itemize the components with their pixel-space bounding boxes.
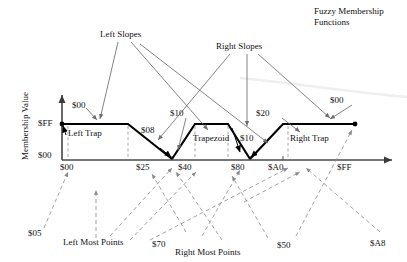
fuzzy-membership-diagram: Fuzzy Membership Functions Membership Va…: [0, 0, 407, 262]
point-label-leaders: [44, 130, 380, 240]
leader-leftmost-d: [150, 168, 288, 240]
leader-leftmost-c: [130, 172, 196, 240]
diagram-canvas: [0, 0, 407, 262]
x-tick-label-80: $80: [231, 162, 245, 172]
annotation-left-slopes: Left Slopes: [100, 29, 141, 39]
chart-title-line2: Functions: [314, 17, 384, 28]
value-left-most-1: $05: [28, 228, 42, 238]
y-tick-label-00: $00: [38, 150, 52, 160]
leader-val-00-right: [330, 105, 352, 119]
leader-rightmost-a: [202, 170, 240, 236]
value-trapezoid-left-slope: $10: [170, 108, 184, 118]
leader-point-70: [152, 174, 186, 232]
shape-label-right-trap: Right Trap: [290, 133, 329, 143]
shape-label-trapezoid: Trapezoid: [193, 133, 229, 143]
background-streak: [240, 78, 407, 97]
annotation-left-most-points: Left Most Points: [63, 237, 124, 247]
value-right-trap-left-slope: $20: [256, 108, 270, 118]
value-right-most-1: $50: [277, 240, 291, 250]
x-tick-label-a0: $A0: [268, 162, 284, 172]
x-tick-label-40: $40: [178, 162, 192, 172]
arrow-vertex-left-base: [160, 148, 171, 157]
leader-leftmost-b: [110, 168, 172, 236]
value-right-most-2: $A8: [370, 238, 386, 248]
value-trapezoid-right-slope: $10: [240, 133, 254, 143]
leader-point-a8: [306, 168, 380, 232]
leader-left-slope-3: [140, 44, 268, 143]
y-tick-label-ff: $FF: [38, 118, 53, 128]
chart-title-line1: Fuzzy Membership: [314, 6, 384, 17]
annotation-right-most-points: Right Most Points: [175, 247, 241, 257]
leader-point-05: [44, 172, 68, 228]
annotation-right-slopes: Right Slopes: [216, 41, 262, 51]
leader-point-50: [232, 176, 268, 238]
value-left-trap-right-slope: $08: [141, 125, 155, 135]
leader-rightmost-c: [296, 130, 352, 236]
dot-right-end: [353, 122, 358, 127]
x-tick-label-ff: $FF: [337, 162, 352, 172]
y-axis-label: Membership Value: [20, 92, 30, 160]
arrow-vertex-origin: [63, 126, 66, 135]
leader-left-slope-1: [100, 42, 118, 119]
value-right-trap-right-slope: $00: [330, 95, 344, 105]
chart-title: Fuzzy Membership Functions: [314, 6, 384, 28]
x-tick-label-25: $25: [136, 162, 150, 172]
value-leaders: [86, 105, 352, 150]
dot-left-origin: [60, 122, 65, 127]
leader-val-00-left: [86, 108, 97, 120]
shape-label-left-trap: Left Trap: [68, 128, 102, 138]
arrow-vertex-trap-base: [251, 147, 262, 157]
value-left-trap-left-slope: $00: [72, 100, 86, 110]
value-left-most-2: $70: [152, 239, 166, 249]
left-slopes-leaders: [100, 42, 268, 143]
x-tick-label-00: $00: [60, 162, 74, 172]
